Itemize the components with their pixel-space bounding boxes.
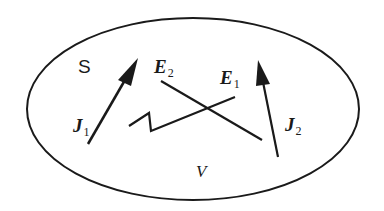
diagram-canvas: S J1 E2 E1 J2 V	[0, 0, 384, 211]
e2-subscript: 2	[168, 66, 174, 80]
field-e1-label: E1	[220, 68, 240, 90]
j1-symbol: J	[73, 115, 83, 136]
surface-label-s: S	[78, 57, 91, 76]
current-j1-label: J1	[73, 116, 90, 138]
j2-symbol: J	[285, 114, 295, 135]
e1-symbol: E	[220, 67, 233, 88]
j2-subscript: 2	[296, 124, 302, 138]
e1-subscript: 1	[234, 77, 240, 91]
e2-symbol: E	[154, 56, 167, 77]
field-e2-line	[161, 81, 262, 140]
region-boundary-ellipse	[27, 18, 359, 200]
current-j2-arrow	[256, 60, 278, 157]
current-j2-label: J2	[285, 115, 302, 137]
volume-label-v: V	[196, 163, 206, 180]
diagram-graphics	[0, 0, 384, 211]
j1-subscript: 1	[84, 125, 90, 139]
current-j1-arrow	[88, 58, 138, 144]
field-e2-label: E2	[154, 57, 174, 79]
